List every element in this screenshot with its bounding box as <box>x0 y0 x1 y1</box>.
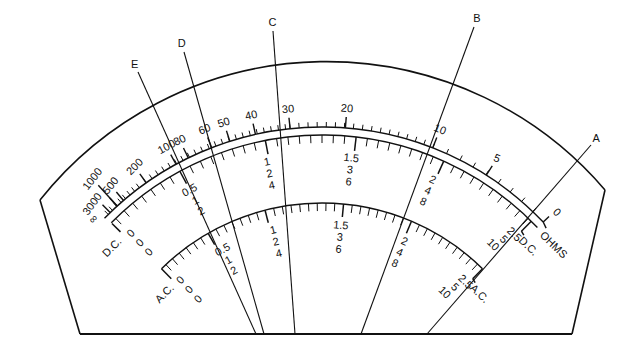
ohms-scale: ∞300010005002001008060504030201050OHMS <box>80 101 570 260</box>
ohms-minor-tick <box>371 126 372 131</box>
ohms-band-inner <box>111 135 537 228</box>
ohms-major-tick <box>226 131 229 141</box>
dc-minor-tick <box>211 157 214 164</box>
ac-minor-tick <box>201 238 205 245</box>
ohms-major-tick <box>102 205 110 213</box>
ac-minor-tick <box>300 204 301 212</box>
dc-minor-tick <box>366 138 367 146</box>
dc-minor-tick <box>344 136 345 144</box>
ohms-minor-tick <box>155 171 158 175</box>
dc-minor-tick <box>399 146 401 154</box>
dc-zero-label: 0 <box>142 245 155 258</box>
ohms-minor-tick <box>398 132 399 137</box>
dc-label: 4 <box>268 178 276 191</box>
right-edge <box>572 190 605 334</box>
ac-scale: A.C.0000.5121241.536248A.C.2.5510 <box>152 203 491 305</box>
ac-minor-tick <box>240 218 243 225</box>
dc-minor-tick <box>151 189 156 196</box>
ac-minor-tick <box>291 205 292 213</box>
ohms-minor-tick <box>460 156 462 160</box>
meter-face: ∞300010005002001008060504030201050OHMS D… <box>0 0 620 350</box>
ac-label: 1.5 <box>333 218 349 231</box>
ohms-minor-tick <box>109 207 112 211</box>
dc-major-tick <box>438 161 444 174</box>
ac-label: 8 <box>390 256 400 269</box>
ac-minor-tick <box>248 215 251 223</box>
ohms-label: 50 <box>216 115 231 130</box>
ohms-minor-tick <box>235 134 236 139</box>
dc-minor-tick <box>479 183 483 190</box>
ohms-minor-tick <box>105 211 109 215</box>
meter-scale-diagram: ∞300010005002001008060504030201050OHMS D… <box>0 0 620 350</box>
dc-minor-tick <box>124 211 129 217</box>
ac-major-tick <box>342 204 343 217</box>
ac-minor-tick <box>466 258 471 264</box>
ac-minor-tick <box>186 248 191 254</box>
ohms-label: 3000 <box>80 190 104 217</box>
ac-minor-tick <box>472 264 477 270</box>
ohms-major-tick <box>289 118 290 129</box>
ac-minor-tick <box>431 233 435 240</box>
ac-minor-tick <box>392 215 395 223</box>
dc-minor-tick <box>420 153 423 161</box>
dc-minor-tick <box>430 157 433 164</box>
ohms-minor-tick <box>127 191 130 195</box>
ohms-minor-tick <box>162 167 165 171</box>
ac-minor-tick <box>438 237 442 244</box>
ohms-minor-tick <box>221 139 223 144</box>
ohms-minor-tick <box>214 141 216 146</box>
ohms-major-tick <box>345 117 346 128</box>
ohms-label: 40 <box>244 108 259 122</box>
ohms-end-foot <box>543 222 546 228</box>
outer-arc <box>40 62 605 200</box>
ac-minor-tick <box>384 212 386 220</box>
ohms-minor-tick <box>207 144 209 149</box>
ohms-minor-tick <box>510 188 513 192</box>
dc-major-tick <box>265 140 268 154</box>
ac-label: 6 <box>335 242 342 254</box>
ohms-major-tick <box>140 174 146 183</box>
ohms-major-tick <box>116 192 123 200</box>
pointer-label-a: A <box>593 132 601 144</box>
dc-major-tick <box>355 137 357 151</box>
ohms-minor-tick <box>353 124 354 129</box>
dc-minor-tick <box>221 153 224 161</box>
ohms-minor-tick <box>407 134 408 139</box>
dc-minor-tick <box>470 177 474 184</box>
ohms-minor-tick <box>278 125 279 130</box>
dc-minor-tick <box>116 218 122 224</box>
ac-minor-tick <box>224 225 227 232</box>
ac-minor-tick <box>424 229 428 236</box>
ohms-major-tick <box>433 138 437 148</box>
ohms-minor-tick <box>380 128 381 133</box>
pointer-label-c: C <box>268 16 276 28</box>
dc-minor-tick <box>515 211 520 217</box>
dc-minor-tick <box>170 177 174 184</box>
ohms-minor-tick <box>118 199 121 203</box>
ohms-minor-tick <box>249 131 250 136</box>
ac-minor-tick <box>274 208 276 216</box>
ohms-minor-tick <box>362 125 363 130</box>
ac-minor-tick <box>351 205 352 213</box>
ohms-minor-tick <box>149 175 152 179</box>
ac-minor-tick <box>416 225 419 232</box>
ac-end-tick <box>473 269 483 279</box>
ac-start-tick <box>161 269 171 279</box>
dc-minor-tick <box>190 166 194 173</box>
ac-minor-tick <box>257 213 259 221</box>
dc-minor-tick <box>377 140 379 148</box>
dc-minor-tick <box>388 143 390 151</box>
ohms-minor-tick <box>424 140 426 145</box>
dc-minor-tick <box>450 166 454 173</box>
ohms-minor-tick <box>415 137 417 142</box>
dc-label: 3 <box>346 163 353 176</box>
ohms-label: 5 <box>492 151 502 164</box>
dc-minor-tick <box>243 146 245 154</box>
ac-minor-tick <box>193 243 197 250</box>
ac-minor-tick <box>376 210 378 218</box>
ac-start-label: A.C. <box>152 282 176 306</box>
ohms-minor-tick <box>242 132 243 137</box>
pointer-label-b: B <box>473 12 480 24</box>
dc-minor-tick <box>200 161 203 168</box>
dc-minor-tick <box>133 203 138 209</box>
